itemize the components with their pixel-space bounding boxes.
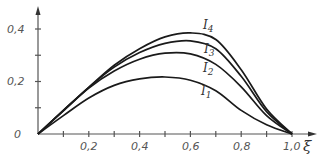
curve-label-I1: I1 — [200, 84, 211, 100]
y-axis-arrow-icon — [36, 6, 41, 15]
chart: 0 0,2 0,4 0,2 0,4 0,6 0,8 1,0 ξ I4 I3 I2… — [0, 0, 331, 157]
curve-label-I4: I4 — [202, 18, 214, 34]
y-tick-label-0.4: 0,4 — [7, 23, 25, 36]
y-tick-label-0.2: 0,2 — [7, 75, 25, 88]
x-axis-arrow-icon — [308, 132, 317, 137]
curves — [38, 33, 292, 134]
origin-label: 0 — [14, 128, 21, 141]
svg-text:I4: I4 — [202, 18, 214, 34]
curve-I1 — [38, 77, 292, 134]
x-tick-label-0.4: 0,4 — [131, 140, 149, 153]
x-tick-label-1.0: 1,0 — [283, 140, 301, 153]
x-axis-title: ξ — [303, 137, 312, 155]
x-tick-label-0.8: 0,8 — [233, 140, 251, 153]
x-tick-label-0.2: 0,2 — [80, 140, 98, 153]
curve-I3 — [38, 41, 292, 134]
svg-text:I1: I1 — [200, 84, 211, 100]
curve-label-I2: I2 — [202, 61, 214, 77]
svg-text:I2: I2 — [202, 61, 214, 77]
x-tick-label-0.6: 0,6 — [182, 140, 200, 153]
